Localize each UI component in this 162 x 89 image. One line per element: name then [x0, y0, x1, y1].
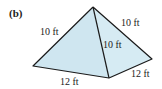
- part-label: (b): [9, 7, 23, 20]
- right-base-edge-label: 12 ft: [131, 68, 150, 79]
- front-slant-edge-label: 10 ft: [103, 39, 122, 50]
- right-slant-edge-label: 10 ft: [121, 17, 140, 28]
- pyramid-diagram: (b) 10 ft 10 ft 10 ft 12 ft 12 ft: [0, 0, 162, 89]
- front-base-edge-label: 12 ft: [60, 76, 79, 87]
- left-slant-edge-label: 10 ft: [40, 26, 59, 37]
